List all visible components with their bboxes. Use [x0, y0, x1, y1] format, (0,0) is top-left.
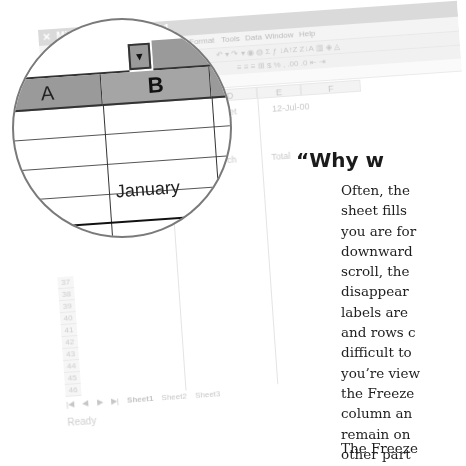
- menu-data[interactable]: Data: [245, 30, 263, 45]
- paragraph-line: Often, the: [341, 180, 461, 200]
- paragraph-line: downward: [341, 241, 461, 261]
- paragraph-line: column an: [341, 403, 461, 423]
- paragraph-line: disappear: [341, 281, 461, 301]
- magnified-column-header-a[interactable]: A: [12, 74, 103, 113]
- section-heading: “Why w: [296, 148, 384, 172]
- sheet-tab-sheet2[interactable]: Sheet2: [161, 392, 187, 403]
- sheet-tab-bar: |◀ ◀ ▶ ▶| Sheet1 Sheet2 Sheet3: [66, 388, 227, 411]
- paragraph-line: labels are: [341, 302, 461, 322]
- sheet-nav-last-button[interactable]: ▶|: [111, 396, 120, 406]
- body-paragraph: Often, the sheet fills you are for downw…: [341, 180, 461, 464]
- grid-line: [12, 122, 232, 142]
- sheet-nav-prev-button[interactable]: ◀: [82, 398, 89, 407]
- grid-line: [212, 96, 224, 238]
- name-box-dropdown-button[interactable]: ▼: [128, 43, 152, 70]
- cell-e-total[interactable]: Total: [271, 151, 291, 162]
- grid-line: [257, 99, 278, 384]
- chevron-down-icon: ▼: [134, 50, 146, 63]
- sheet-nav-next-button[interactable]: ▶: [96, 397, 103, 406]
- magnifier-callout: ▼ A B January: [12, 18, 232, 238]
- grid-line: [12, 152, 232, 172]
- menu-help[interactable]: Help: [298, 27, 315, 42]
- next-paragraph: The Freeze: [341, 440, 418, 456]
- freeze-pane-divider: [12, 210, 232, 231]
- paragraph-line: and rows c: [341, 322, 461, 342]
- paragraph-line: you are for: [341, 221, 461, 241]
- paragraph-line: scroll, the: [341, 261, 461, 281]
- row-header-46[interactable]: 46: [65, 384, 82, 397]
- status-bar-text: Ready: [67, 415, 97, 428]
- grid-line: [103, 104, 115, 238]
- formula-bar-area: [151, 32, 232, 70]
- paragraph-line: the Freeze: [341, 383, 461, 403]
- sheet-tab-sheet1[interactable]: Sheet1: [127, 394, 154, 405]
- column-header-e[interactable]: E: [257, 84, 302, 99]
- magnified-column-header-c[interactable]: [209, 62, 232, 98]
- paragraph-line: difficult to: [341, 342, 461, 362]
- paragraph-line: you’re view: [341, 363, 461, 383]
- magnified-cell-january[interactable]: January: [115, 177, 180, 202]
- sheet-nav-first-button[interactable]: |◀: [66, 399, 75, 409]
- paragraph-line: sheet fills: [341, 200, 461, 220]
- magnified-column-header-b[interactable]: B: [101, 67, 212, 107]
- cell-e-date[interactable]: 12-Jul-00: [272, 101, 310, 114]
- sheet-tab-sheet3[interactable]: Sheet3: [195, 389, 221, 400]
